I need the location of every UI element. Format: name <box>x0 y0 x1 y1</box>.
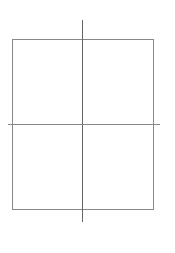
quadrant-diagram <box>0 0 175 253</box>
